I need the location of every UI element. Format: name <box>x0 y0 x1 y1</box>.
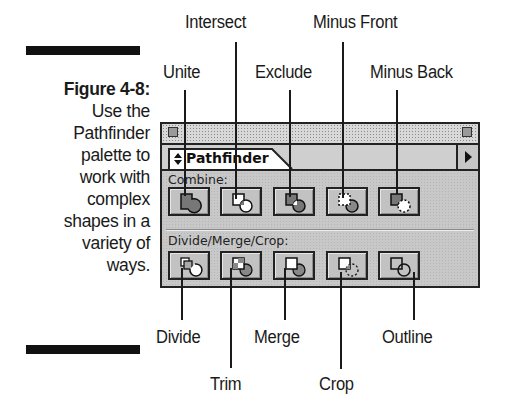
leader-divide <box>181 268 183 320</box>
leader-crop <box>340 272 342 369</box>
exclude-button[interactable] <box>273 187 315 216</box>
minus-front-icon <box>337 192 363 214</box>
intersect-button[interactable] <box>220 187 262 216</box>
section-divider <box>166 229 474 231</box>
trim-icon <box>231 256 257 278</box>
caption-top-rule <box>26 46 140 55</box>
leader-exclude <box>289 90 291 197</box>
minus-back-icon <box>389 192 415 214</box>
tab-pathfinder[interactable]: Pathfinder <box>168 148 296 169</box>
palette-tab-row: Pathfinder <box>162 145 478 171</box>
merge-button[interactable] <box>273 251 315 280</box>
leader-minus-front <box>342 42 344 198</box>
callout-divide: Divide <box>156 327 200 348</box>
divide-merge-crop-label: Divide/Merge/Crop: <box>168 233 288 248</box>
figure-caption: Figure 4-8: Use the Pathfinder palette t… <box>64 78 150 276</box>
triangle-right-icon <box>458 145 478 169</box>
caption-line: work with <box>64 166 150 188</box>
unite-icon <box>179 192 205 214</box>
trim-button[interactable] <box>220 251 262 280</box>
unite-button[interactable] <box>168 187 210 216</box>
callout-intersect: Intersect <box>185 12 246 33</box>
leader-merge <box>284 268 286 320</box>
leader-intersect <box>235 42 237 199</box>
close-box-icon[interactable] <box>168 127 178 137</box>
tab-label: Pathfinder <box>186 150 269 166</box>
palette-menu-button[interactable] <box>456 145 478 169</box>
leader-unite <box>184 90 186 196</box>
divide-button[interactable] <box>168 251 210 280</box>
caption-line: Pathfinder <box>64 122 150 144</box>
leader-minus-back <box>396 90 398 194</box>
combine-label: Combine: <box>168 172 228 187</box>
leader-outline <box>413 272 415 320</box>
callout-minus-back: Minus Back <box>370 62 453 83</box>
merge-icon <box>284 256 310 278</box>
caption-bottom-rule <box>26 345 140 354</box>
callout-trim: Trim <box>210 374 241 395</box>
callout-unite: Unite <box>163 62 200 83</box>
crop-button[interactable] <box>326 251 368 280</box>
palette-title-bar[interactable] <box>162 124 478 145</box>
caption-line: shapes in a <box>64 210 150 232</box>
exclude-icon <box>284 192 310 214</box>
caption-line: palette to <box>64 144 150 166</box>
callout-merge: Merge <box>254 327 300 348</box>
caption-line: complex <box>64 188 150 210</box>
minus-front-button[interactable] <box>326 187 368 216</box>
pathfinder-palette: Pathfinder Combine: <box>160 122 480 288</box>
caption-line: variety of <box>64 232 150 254</box>
callout-crop: Crop <box>319 374 354 395</box>
figure-number: Figure 4-8: <box>64 78 150 100</box>
caption-line: ways. <box>64 254 150 276</box>
outline-icon <box>389 256 415 278</box>
callout-outline: Outline <box>382 327 433 348</box>
callout-minus-front: Minus Front <box>313 12 397 33</box>
zoom-box-icon[interactable] <box>462 127 472 137</box>
callout-exclude: Exclude <box>255 62 312 83</box>
minus-back-button[interactable] <box>378 187 420 216</box>
caption-line: Use the <box>64 100 150 122</box>
leader-trim <box>230 268 232 368</box>
up-down-arrows-icon[interactable] <box>173 152 183 166</box>
